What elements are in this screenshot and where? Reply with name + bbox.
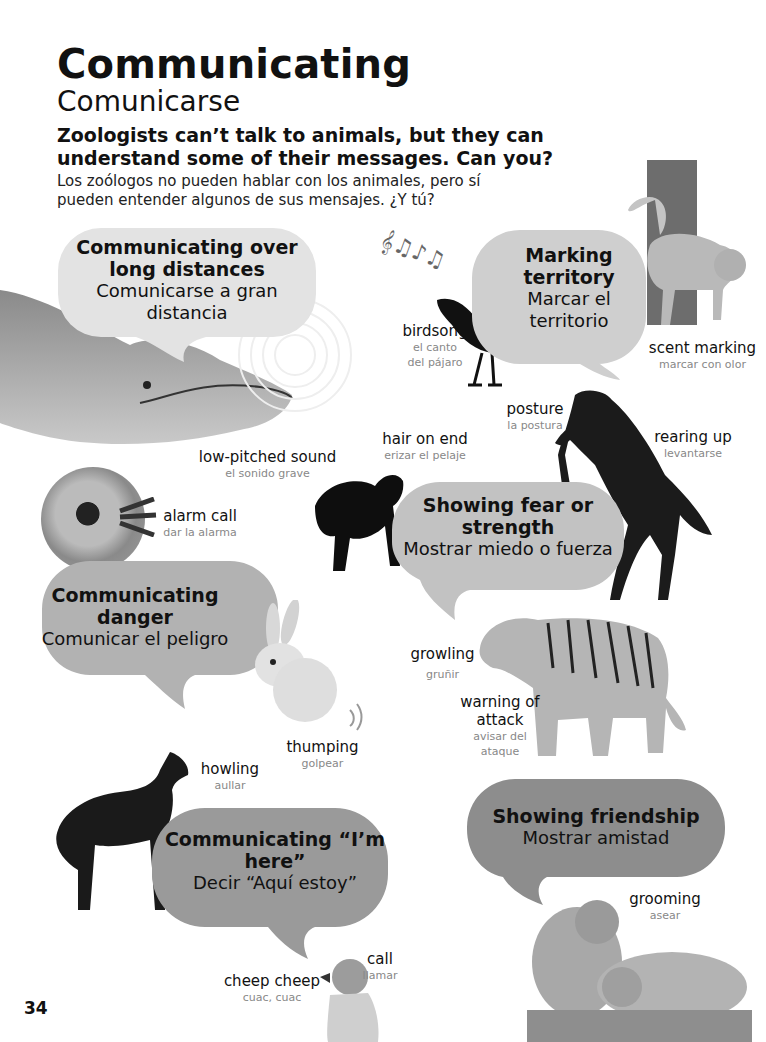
- label-cheep-cheep: cheep cheep cuac, cuac: [222, 972, 322, 1005]
- bubble-title-es: Comunicarse a gran distancia: [56, 280, 318, 324]
- page-title: Communicating: [57, 40, 411, 88]
- bubble-title-es: Decir “Aquí estoy”: [160, 872, 390, 894]
- label-howling: howling aullar: [195, 760, 265, 793]
- bubble-title-en: Communicating over long distances: [56, 236, 318, 280]
- label-birdsong: birdsong el canto del pájaro: [395, 322, 475, 370]
- intro-spanish: Los zoólogos no pueden hablar con los an…: [57, 172, 527, 210]
- bubble-title-es: Mostrar amistad: [465, 827, 727, 849]
- bubble-title-en: Showing friendship: [465, 805, 727, 827]
- label-call: call llamar: [355, 950, 405, 983]
- bubble-title-es: Mostrar miedo o fuerza: [390, 538, 626, 560]
- intro-english: Zoologists can’t talk to animals, but th…: [57, 124, 557, 170]
- music-notes-icon: 𝄞♫♪♫: [378, 227, 449, 273]
- bubble-marking-territory: Marking territory Marcar el territorio: [470, 228, 648, 383]
- bubble-title-es: Comunicar el peligro: [40, 628, 230, 650]
- label-alarm-call: alarm call dar la alarma: [155, 507, 245, 540]
- bubble-title-en: Showing fear or strength: [390, 494, 626, 538]
- label-grooming: grooming asear: [625, 890, 705, 923]
- label-warning-of-attack: warning of attack avisar del ataque: [460, 693, 540, 759]
- bubble-danger: Communicating danger Comunicar el peligr…: [40, 559, 280, 712]
- bubble-title-en: Communicating “I’m here”: [160, 828, 390, 872]
- bubble-fear-strength: Showing fear or strength Mostrar miedo o…: [390, 480, 626, 622]
- page-subtitle: Comunicarse: [57, 84, 240, 120]
- rabbit-image: [245, 600, 365, 735]
- bubble-long-distances: Communicating over long distances Comuni…: [56, 226, 318, 366]
- bubble-im-here: Communicating “I’m here” Decir “Aquí est…: [150, 806, 390, 961]
- bubble-title-es: Marcar el territorio: [490, 288, 648, 332]
- label-posture: posture la postura: [495, 400, 575, 433]
- label-rearing-up: rearing up levantarse: [648, 428, 738, 461]
- label-thumping: thumping golpear: [280, 738, 365, 771]
- label-scent-marking: scent marking marcar con olor: [645, 339, 760, 372]
- bubble-title-en: Marking territory: [490, 244, 648, 288]
- page-number: 34: [24, 998, 48, 1018]
- alarm-lines-icon: [118, 497, 158, 537]
- bubble-title-en: Communicating danger: [40, 584, 230, 628]
- label-low-pitched-sound: low-pitched sound el sonido grave: [195, 448, 340, 481]
- bubble-friendship: Showing friendship Mostrar amistad: [465, 777, 727, 907]
- label-hair-on-end: hair on end erizar el pelaje: [375, 430, 475, 463]
- label-growling: growling gruñir: [405, 645, 480, 682]
